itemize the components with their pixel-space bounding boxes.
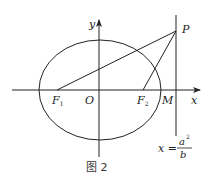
f2-label: F2 xyxy=(136,94,149,107)
p-label: P xyxy=(181,23,190,36)
y-axis-label: y xyxy=(88,18,96,31)
svg-text:a: a xyxy=(179,136,185,147)
figure-caption: 图 2 xyxy=(86,161,108,174)
f1-label: F1 xyxy=(51,94,63,107)
ellipse-diagram: y x O F1 F2 M P x = a 2 b 图 2 xyxy=(0,0,211,186)
directrix-equation: x = a 2 b xyxy=(158,133,192,160)
segment-pf1 xyxy=(57,31,176,90)
origin-label: O xyxy=(85,94,94,107)
svg-text:x =: x = xyxy=(158,142,177,155)
svg-text:b: b xyxy=(180,149,186,160)
m-label: M xyxy=(161,94,174,107)
segment-pf2 xyxy=(143,31,176,90)
svg-text:2: 2 xyxy=(186,133,190,140)
x-axis-label: x xyxy=(191,94,198,107)
